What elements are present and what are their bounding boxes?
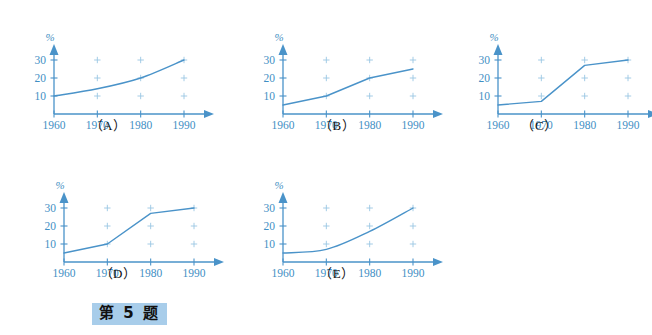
caption-option-a: （A） [8,115,208,134]
grid-plus-marker [581,75,587,81]
grid-plus-marker [538,57,544,63]
y-tick-label: 20 [264,72,276,84]
y-tick-label: 20 [264,220,276,232]
y-tick-label: 20 [45,220,57,232]
grid-plus-marker [94,93,100,99]
y-tick-label: 30 [35,54,47,66]
grid-plus-marker [181,75,187,81]
y-tick-label: 10 [479,90,491,102]
y-tick-label: 30 [479,54,491,66]
grid-plus-marker [147,223,153,229]
grid-plus-marker [625,75,631,81]
grid-plus-marker [581,93,587,99]
grid-plus-marker [137,93,143,99]
y-axis-unit-label: % [45,31,54,43]
grid-plus-marker [147,241,153,247]
grid-plus-marker [366,241,372,247]
grid-plus-marker [104,223,110,229]
y-tick-label: 30 [264,202,276,214]
grid-plus-marker [94,57,100,63]
caption-option-d: （D） [18,263,218,282]
grid-plus-marker [181,93,187,99]
y-axis-unit-label: % [274,179,283,191]
grid-plus-marker [137,57,143,63]
grid-plus-marker [323,223,329,229]
grid-plus-marker [323,241,329,247]
grid-plus-marker [538,93,544,99]
y-axis-unit-label: % [489,31,498,43]
data-series-line [64,208,194,253]
y-tick-label: 10 [45,238,57,250]
grid-plus-marker [366,57,372,63]
y-axis-unit-label: % [274,31,283,43]
grid-plus-marker [323,205,329,211]
y-tick-label: 20 [479,72,491,84]
y-tick-label: 20 [35,72,47,84]
y-axis-arrow [279,44,288,55]
grid-plus-marker [323,75,329,81]
grid-plus-marker [410,223,416,229]
data-series-line [498,60,628,105]
y-tick-label: 30 [45,202,57,214]
caption-option-c: （C） [452,115,627,134]
grid-plus-marker [366,205,372,211]
y-tick-label: 30 [264,54,276,66]
y-axis-arrow [60,192,69,203]
grid-plus-marker [581,57,587,63]
y-axis-arrow [50,44,59,55]
grid-plus-marker [191,223,197,229]
question-number-tag: 第 5 题 [92,303,167,325]
grid-plus-marker [410,241,416,247]
data-series-line [54,60,184,96]
grid-plus-marker [366,93,372,99]
data-series-line [283,208,413,253]
grid-plus-marker [410,93,416,99]
caption-option-e: （E） [237,263,437,282]
caption-option-b: （B） [237,115,437,134]
grid-plus-marker [191,241,197,247]
y-tick-label: 10 [264,90,276,102]
y-axis-arrow [494,44,503,55]
data-series-line [283,69,413,105]
y-axis-arrow [279,192,288,203]
grid-plus-marker [410,57,416,63]
y-tick-label: 10 [264,238,276,250]
grid-plus-marker [94,75,100,81]
grid-plus-marker [538,75,544,81]
grid-plus-marker [147,205,153,211]
x-axis-arrow [648,110,652,118]
y-tick-label: 10 [35,90,47,102]
grid-plus-marker [323,57,329,63]
grid-plus-marker [366,223,372,229]
grid-plus-marker [104,205,110,211]
grid-plus-marker [410,75,416,81]
grid-plus-marker [625,93,631,99]
y-axis-unit-label: % [55,179,64,191]
